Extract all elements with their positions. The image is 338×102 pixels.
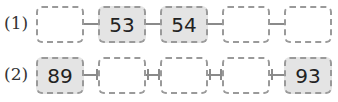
number-box-5[interactable] (284, 6, 332, 43)
connector-line (146, 23, 160, 25)
number-box-3: 54 (160, 6, 208, 43)
number-box-3[interactable] (160, 57, 208, 94)
connector-tick (271, 69, 273, 80)
number-box-4[interactable] (222, 6, 270, 43)
connector-line (270, 23, 284, 25)
number-box-4[interactable] (222, 57, 270, 94)
number-box-1[interactable] (36, 6, 84, 43)
sequence-row-1: (1) 53 54 (0, 6, 338, 42)
number-box-5: 93 (284, 57, 332, 94)
connector-tick (209, 69, 211, 80)
connector-line (84, 23, 98, 25)
number-box-2[interactable] (98, 57, 146, 94)
sequence-row-2: (2) 89 93 (0, 57, 338, 93)
connector-tick (147, 69, 149, 80)
number-box-1: 89 (36, 57, 84, 94)
connector-line (208, 23, 222, 25)
row-label: (1) (4, 13, 28, 33)
number-box-2: 53 (98, 6, 146, 43)
row-label: (2) (4, 64, 28, 84)
